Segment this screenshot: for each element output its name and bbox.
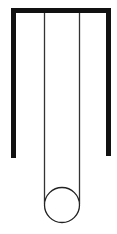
pendulum-bob	[45, 188, 80, 223]
pendulum-diagram	[0, 0, 117, 234]
